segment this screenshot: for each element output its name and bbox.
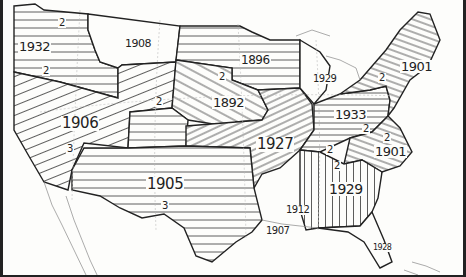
map-frame (0, 0, 466, 277)
map: 1932 2 2 1908 1906 2 3 1896 1892 2 1929 … (0, 0, 466, 277)
